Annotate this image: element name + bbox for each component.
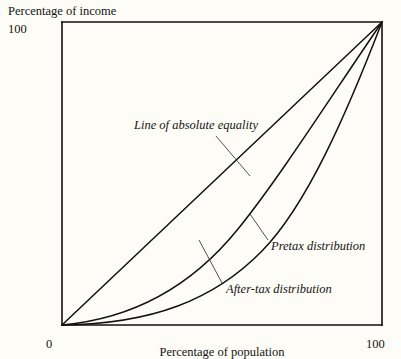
annotation-label-equality: Line of absolute equality [133,118,258,132]
y-axis-title: Percentage of income [8,4,117,18]
annotation-label-aftertax: After-tax distribution [225,282,332,296]
chart-canvas: Percentage of income 100 0 100 Percentag… [0,0,401,359]
x-axis-tick-0: 0 [46,337,52,351]
x-axis-tick-100: 100 [366,337,385,351]
lorenz-curve-figure: Percentage of income 100 0 100 Percentag… [0,0,401,359]
y-axis-tick-100: 100 [8,22,27,36]
annotation-label-pretax: Pretax distribution [270,239,365,253]
x-axis-title: Percentage of population [160,345,286,359]
figure-background [0,0,401,359]
